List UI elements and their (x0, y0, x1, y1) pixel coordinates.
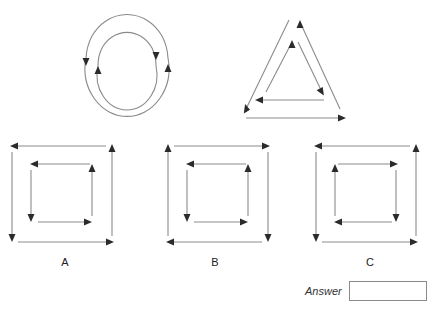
option-a-inner-top-arrow (30, 161, 90, 168)
outer-triangle-left-edge (241, 20, 289, 115)
outer-arrowhead-left-down (83, 58, 90, 66)
option-a-figure[interactable] (2, 136, 130, 248)
option-a-outer-bottom-arrow (18, 239, 114, 246)
inner-circle-arc-top (102, 32, 152, 48)
option-b-label: B (195, 256, 235, 268)
inner-circle-arc-tail-left (98, 48, 102, 66)
option-a-inner-left-arrow (28, 170, 35, 222)
option-a-outer-top-arrow (10, 143, 106, 150)
option-c-label: C (350, 256, 390, 268)
inner-circle-arc (97, 66, 157, 110)
figure-concentric-circles (66, 6, 188, 130)
option-b-outer-left-arrow (165, 144, 172, 236)
option-a-label: A (45, 256, 85, 268)
option-c-outer-bottom-arrow (322, 239, 418, 246)
inner-triangle-bottom-edge (255, 97, 324, 104)
outer-circle-arc-tail-left (86, 36, 92, 58)
figure-nested-triangles (232, 8, 357, 130)
answer-label: Answer (305, 285, 342, 297)
option-a-inner-right-arrow (89, 164, 96, 216)
option-c-inner-left-arrow (332, 164, 339, 216)
inner-triangle-left-edge (266, 40, 296, 92)
option-c-outer-top-arrow (314, 143, 410, 150)
option-b-inner-top-arrow (186, 161, 246, 168)
option-c-inner-top-arrow (338, 161, 398, 168)
option-a-outer-left-arrow (9, 152, 16, 242)
option-b-inner-right-arrow (245, 164, 252, 216)
option-c-inner-right-arrow (393, 170, 400, 222)
answer-input[interactable] (349, 281, 427, 301)
outer-circle-arc-tail-right (162, 36, 168, 58)
outer-triangle-right-edge (297, 20, 341, 109)
option-b-inner-left-arrow (184, 170, 191, 222)
outer-arrowhead-right-up (165, 64, 172, 72)
option-c-outer-left-arrow (313, 152, 320, 242)
option-c-inner-bottom-arrow (334, 219, 392, 226)
option-b-outer-bottom-arrow (166, 239, 262, 246)
option-a-inner-bottom-arrow (38, 219, 92, 226)
option-c-outer-right-arrow (413, 144, 420, 236)
outer-triangle-bottom-edge (246, 115, 346, 122)
answer-row: Answer (305, 281, 427, 301)
option-c-figure[interactable] (306, 136, 434, 248)
option-b-inner-bottom-arrow (194, 219, 248, 226)
inner-arrowhead-left-up (95, 66, 102, 74)
option-b-figure[interactable] (158, 136, 286, 248)
option-b-outer-top-arrow (174, 143, 270, 150)
option-a-outer-right-arrow (109, 144, 116, 236)
inner-arrowhead-right-down (153, 52, 160, 60)
option-b-outer-right-arrow (265, 152, 272, 242)
puzzle-canvas: A B C Answer (0, 0, 437, 309)
